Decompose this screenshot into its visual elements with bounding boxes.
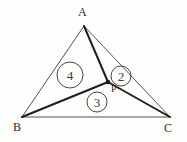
cevian-ap (84, 26, 108, 82)
vertex-label-b: B (13, 120, 21, 134)
triangle-figure-canvas: 4 2 3 A B C P (0, 0, 187, 142)
region-4-number: 4 (67, 68, 74, 83)
region-marker-3: 3 (87, 92, 107, 112)
point-label-p: P (111, 83, 117, 94)
vertex-label-a: A (78, 5, 87, 19)
region-3-number: 3 (94, 95, 101, 110)
point-p-marker (106, 80, 110, 84)
region-2-number: 2 (118, 69, 125, 84)
region-marker-4: 4 (57, 62, 83, 88)
vertex-label-c: C (164, 121, 172, 135)
triangle-diagram: 4 2 3 A B C P (0, 0, 187, 142)
cevian-pc (108, 82, 170, 117)
